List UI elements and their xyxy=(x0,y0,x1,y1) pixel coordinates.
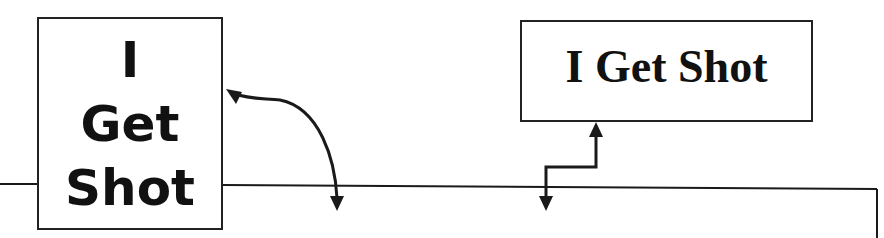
curved-arrow-head-start xyxy=(226,89,242,104)
curved-arrow xyxy=(233,93,337,198)
container-top-line-right xyxy=(223,185,877,189)
left-node-line-1: I xyxy=(121,28,140,92)
left-node-box: I Get Shot xyxy=(37,17,223,230)
curved-arrow-head-end xyxy=(330,196,344,211)
elbow-arrow-head-up xyxy=(589,122,603,137)
right-node-box: I Get Shot xyxy=(520,20,813,122)
elbow-arrow-head-down xyxy=(539,196,553,211)
elbow-arrow xyxy=(546,134,596,198)
left-node-line-3: Shot xyxy=(65,156,195,220)
right-node-title: I Get Shot xyxy=(566,40,768,93)
left-node-line-2: Get xyxy=(81,92,180,156)
